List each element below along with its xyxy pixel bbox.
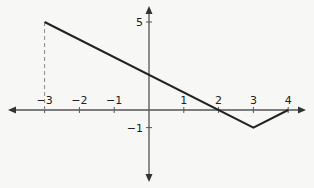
y-axis-down-arrow-icon [146,174,153,182]
x-tick-label: 4 [285,94,292,107]
x-tick-label: 3 [250,94,257,107]
x-axis-right-arrow-icon [298,107,306,114]
x-tick-label: −1 [106,94,122,107]
y-tick-label: −1 [127,122,143,135]
y-axis-up-arrow-icon [146,6,153,14]
x-axis-left-arrow-icon [8,107,16,114]
data-line [45,22,289,128]
x-tick-label: −2 [71,94,87,107]
chart: −3−2−112345−1 [0,0,314,188]
y-tick-label: 5 [136,16,143,29]
x-tick-label: 1 [180,94,187,107]
series-line [45,22,289,128]
x-tick-label: 2 [215,94,222,107]
ticks: −3−2−112345−1 [36,16,291,135]
